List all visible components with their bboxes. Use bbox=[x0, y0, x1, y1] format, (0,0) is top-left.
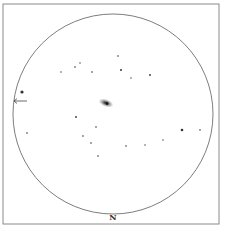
arrow-marker-icon bbox=[14, 99, 27, 104]
finder-chart: N bbox=[0, 0, 226, 234]
star-12 bbox=[95, 126, 97, 128]
star-11 bbox=[82, 135, 84, 137]
star-1 bbox=[60, 71, 61, 72]
chart-frame bbox=[3, 4, 219, 224]
star-13 bbox=[90, 142, 92, 144]
star-5 bbox=[117, 55, 119, 57]
star-3 bbox=[79, 62, 80, 63]
star-4 bbox=[91, 71, 93, 73]
star-15 bbox=[125, 145, 127, 147]
star-6 bbox=[120, 69, 122, 71]
star-8 bbox=[149, 74, 151, 76]
star-2 bbox=[74, 66, 76, 68]
north-orientation-label: N bbox=[109, 212, 116, 222]
field-of-view-circle bbox=[13, 14, 213, 214]
star-17 bbox=[162, 139, 163, 140]
star-0 bbox=[20, 90, 23, 93]
star-7 bbox=[130, 77, 131, 78]
star-16 bbox=[144, 144, 145, 145]
star-18 bbox=[181, 129, 184, 132]
star-14 bbox=[97, 155, 99, 157]
star-19 bbox=[199, 129, 201, 131]
galaxy bbox=[97, 97, 115, 110]
star-9 bbox=[26, 132, 28, 134]
star-10 bbox=[75, 116, 77, 118]
galaxy-core bbox=[106, 102, 109, 105]
